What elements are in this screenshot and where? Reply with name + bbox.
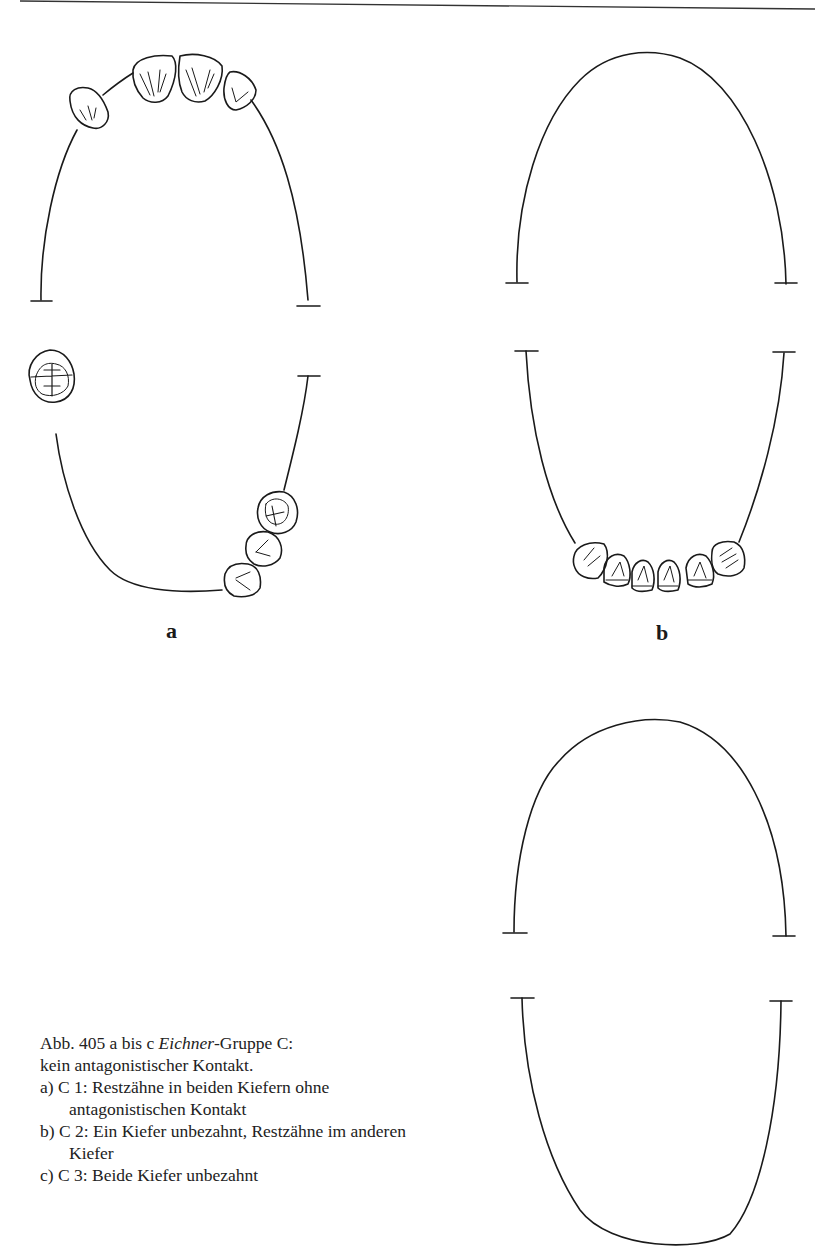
tooth-icon [246, 532, 282, 566]
tooth-icon [658, 560, 680, 591]
tooth-icon [179, 54, 223, 102]
panel-b-upper-jaw [506, 53, 797, 284]
caption-item-text: C 3: Beide Kiefer unbezahnt [58, 1165, 258, 1185]
panel-b-label: b [656, 620, 668, 645]
figure-caption: Abb. 405 a bis c Eichner-Gruppe C: kein … [40, 1032, 420, 1186]
panel-b-lower-jaw [515, 351, 795, 591]
caption-item-marker: c) [40, 1165, 54, 1185]
tooth-icon [712, 541, 745, 576]
tooth-icon [632, 560, 654, 591]
panel-a-label: a [166, 618, 177, 643]
caption-item-text: C 1: Restzähne in beiden Kiefern ohne an… [58, 1077, 329, 1119]
molar-icon [29, 350, 74, 402]
tooth-icon [686, 555, 714, 588]
tooth-icon [133, 56, 176, 103]
caption-item-marker: a) [40, 1077, 54, 1097]
caption-title-prefix: Abb. 405 a bis c [40, 1033, 159, 1053]
tooth-icon [573, 543, 607, 579]
tooth-icon [604, 555, 630, 587]
panel-c-lower-jaw [511, 998, 792, 1245]
caption-item-a: a) C 1: Restzähne in beiden Kiefern ohne… [40, 1076, 420, 1120]
tooth-icon [224, 563, 260, 596]
tooth-icon [70, 88, 109, 129]
caption-title-italic: Eichner [159, 1033, 214, 1053]
tooth-icon [224, 72, 256, 110]
caption-title-suffix: -Gruppe C: [214, 1033, 293, 1053]
caption-item-text: C 2: Ein Kiefer unbezahnt, Restzähne im … [59, 1121, 406, 1163]
caption-item-b: b) C 2: Ein Kiefer unbezahnt, Restzähne … [40, 1120, 420, 1164]
caption-subtitle: kein antagonistischer Kontakt. [40, 1054, 420, 1076]
panel-c-upper-jaw [503, 720, 795, 936]
panel-a-lower-jaw [29, 350, 320, 597]
caption-title: Abb. 405 a bis c Eichner-Gruppe C: [40, 1032, 420, 1054]
molar-icon [258, 492, 298, 534]
caption-item-c: c) C 3: Beide Kiefer unbezahnt [40, 1164, 420, 1186]
caption-item-marker: b) [40, 1121, 55, 1141]
panel-a-upper-jaw [31, 54, 320, 306]
